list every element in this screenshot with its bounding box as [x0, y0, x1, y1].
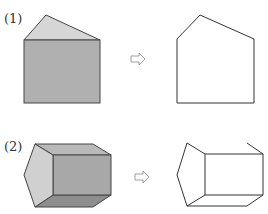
solid-figure-2: [24, 144, 111, 207]
figure-canvas: [0, 0, 268, 214]
arrow-right-icon: [131, 53, 145, 65]
arrow-right-icon: [135, 171, 149, 183]
result-outline-1: [177, 15, 254, 103]
result-outline-2: [177, 143, 263, 206]
solid-figure-1: [24, 15, 100, 103]
